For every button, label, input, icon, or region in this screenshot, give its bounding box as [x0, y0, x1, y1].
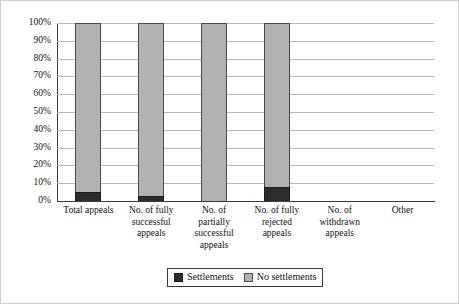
gridline	[57, 23, 434, 24]
y-axis-tick-label: 20%	[34, 161, 51, 171]
bar-segment-no-settlements[interactable]	[264, 23, 290, 187]
bar-segment-settlements[interactable]	[264, 187, 290, 201]
y-axis-tick-label: 60%	[34, 89, 51, 99]
gridline	[57, 76, 434, 77]
gridline	[57, 148, 434, 149]
y-axis-tick-label: 80%	[34, 54, 51, 64]
y-axis-tick-label: 10%	[34, 178, 51, 188]
legend-label-no-settlements: No settlements	[257, 271, 317, 283]
bar-segment-no-settlements[interactable]	[75, 23, 101, 192]
x-axis-category-label-6: Other	[360, 205, 446, 217]
bar-1[interactable]	[75, 23, 101, 201]
y-axis-tick-label: 100%	[29, 18, 51, 28]
bar-segment-settlements[interactable]	[75, 192, 101, 201]
y-axis-tick-label: 90%	[34, 36, 51, 46]
bar-segment-no-settlements[interactable]	[138, 23, 164, 196]
gridline	[57, 165, 434, 166]
gridline	[57, 201, 434, 202]
y-axis-tick-label: 70%	[34, 72, 51, 82]
gridline	[57, 183, 434, 184]
legend-item-settlements[interactable]: Settlements	[174, 271, 234, 283]
gridline	[57, 94, 434, 95]
legend-label-settlements: Settlements	[187, 271, 234, 283]
category-label-line: Other	[360, 205, 446, 217]
category-label-line: appeals	[297, 228, 383, 240]
gridline	[57, 112, 434, 113]
bar-3[interactable]	[201, 23, 227, 201]
dark-swatch-icon	[174, 273, 183, 282]
y-axis-tick-label: 50%	[34, 107, 51, 117]
chart-figure: 0%10%20%30%40%50%60%70%80%90%100% Total …	[0, 0, 459, 304]
gray-swatch-icon	[244, 273, 253, 282]
legend-item-no-settlements[interactable]: No settlements	[244, 271, 317, 283]
bar-2[interactable]	[138, 23, 164, 201]
gridline	[57, 41, 434, 42]
bar-segment-settlements[interactable]	[138, 196, 164, 201]
y-axis-tick-label: 40%	[34, 125, 51, 135]
category-label-line: withdrawn	[297, 217, 383, 229]
bar-segment-no-settlements[interactable]	[201, 23, 227, 201]
y-axis-tick-label: 30%	[34, 143, 51, 153]
gridline	[57, 130, 434, 131]
chart-legend: Settlements No settlements	[167, 268, 323, 287]
bar-4[interactable]	[264, 23, 290, 201]
category-label-line: appeals	[171, 240, 257, 252]
plot-area: 0%10%20%30%40%50%60%70%80%90%100%	[57, 23, 434, 201]
gridline	[57, 59, 434, 60]
